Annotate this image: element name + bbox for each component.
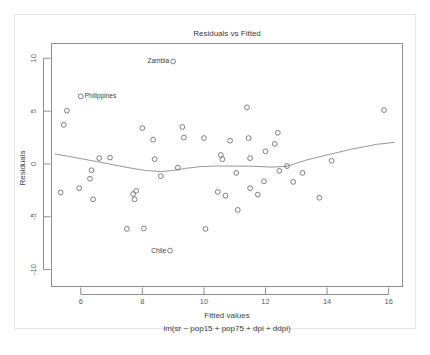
y-axis-tick-label: -5 bbox=[30, 213, 39, 220]
scatter-point bbox=[158, 174, 163, 179]
chart-title: Residuals vs Fitted bbox=[193, 29, 261, 38]
y-axis-tick-label: 0 bbox=[30, 162, 39, 166]
scatter-point bbox=[202, 136, 207, 141]
y-axis-tick-label: 10 bbox=[30, 54, 39, 62]
scatter-point bbox=[134, 188, 139, 193]
scatter-point bbox=[234, 171, 239, 176]
scatter-point bbox=[152, 157, 157, 162]
point-label-zambia: Zambia bbox=[147, 57, 169, 64]
scatter-point bbox=[317, 195, 322, 200]
scatter-point bbox=[141, 226, 146, 231]
scatter-point bbox=[78, 94, 83, 99]
scatter-point bbox=[64, 108, 69, 113]
scatter-point bbox=[275, 130, 280, 135]
scatter-point bbox=[180, 125, 185, 130]
scatter-point bbox=[228, 138, 233, 143]
scatter-point bbox=[89, 168, 94, 173]
scatter-point bbox=[291, 180, 296, 185]
scatter-point bbox=[262, 179, 267, 184]
scatter-point bbox=[245, 105, 250, 110]
scatter-point bbox=[132, 197, 137, 202]
scatter-point bbox=[220, 157, 225, 162]
scatter-point bbox=[246, 136, 251, 141]
plot-frame bbox=[52, 44, 403, 287]
x-axis-tick-label: 6 bbox=[79, 297, 83, 306]
scatter-point bbox=[171, 59, 176, 64]
y-axis: 1050-5-10 bbox=[30, 54, 51, 275]
scatter-point bbox=[235, 208, 240, 213]
scatter-point bbox=[88, 176, 93, 181]
scatter-point bbox=[272, 141, 277, 146]
loess-smoother-line bbox=[55, 142, 395, 171]
scatter-point bbox=[277, 168, 282, 173]
scatter-point bbox=[151, 137, 156, 142]
point-label-chile: Chile bbox=[151, 247, 166, 254]
x-axis-tick-label: 12 bbox=[261, 297, 269, 306]
y-axis-tick-label: 5 bbox=[30, 109, 39, 113]
scatter-point bbox=[108, 155, 113, 160]
scatter-point bbox=[91, 197, 96, 202]
figure-border bbox=[15, 15, 416, 329]
scatter-point bbox=[263, 149, 268, 154]
residuals-vs-fitted-plot: Residuals vs Fitted 1050-5-10 6810121416… bbox=[0, 0, 430, 355]
scatter-point bbox=[248, 186, 253, 191]
scatter-point bbox=[61, 122, 66, 127]
point-labels: PhilippinesChileZambia bbox=[85, 57, 170, 253]
point-label-philippines: Philippines bbox=[85, 92, 117, 100]
scatter-point bbox=[168, 248, 173, 253]
scatter-point bbox=[140, 126, 145, 131]
scatter-point bbox=[300, 171, 305, 176]
x-axis-title: Fitted values bbox=[204, 311, 249, 320]
scatter-point bbox=[223, 193, 228, 198]
scatter-point bbox=[215, 190, 220, 195]
x-axis-tick-label: 8 bbox=[140, 297, 144, 306]
scatter-point bbox=[125, 227, 130, 232]
scatter-point bbox=[58, 190, 63, 195]
x-axis-tick-label: 16 bbox=[384, 297, 392, 306]
x-axis-tick-label: 14 bbox=[323, 297, 331, 306]
scatter-point bbox=[77, 186, 82, 191]
y-axis-tick-label: -10 bbox=[30, 264, 39, 275]
scatter-points bbox=[58, 59, 386, 253]
scatter-point bbox=[203, 227, 208, 232]
figure-container: Residuals vs Fitted 1050-5-10 6810121416… bbox=[0, 0, 430, 355]
scatter-point bbox=[382, 108, 387, 113]
scatter-point bbox=[97, 156, 102, 161]
scatter-point bbox=[181, 135, 186, 140]
model-formula-subtitle: lm(sr ~ pop15 + pop75 + dpi + ddpi) bbox=[163, 324, 291, 333]
x-axis: 6810121416 bbox=[79, 288, 393, 307]
scatter-point bbox=[329, 158, 334, 163]
scatter-point bbox=[255, 192, 260, 197]
x-axis-tick-label: 10 bbox=[200, 297, 208, 306]
y-axis-title: Residuals bbox=[18, 150, 27, 185]
scatter-point bbox=[248, 156, 253, 161]
